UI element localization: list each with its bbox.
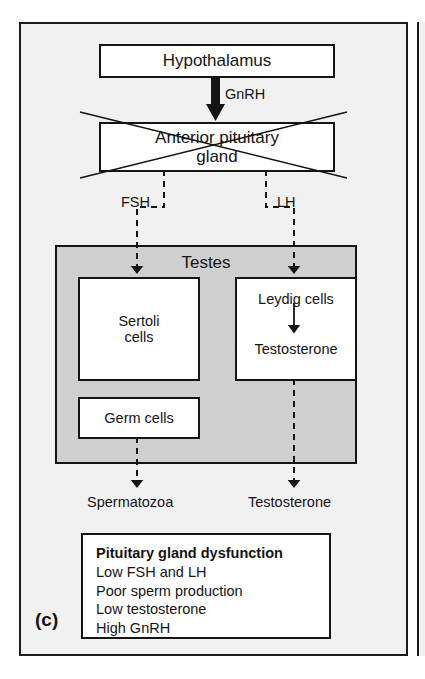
box-germ-cells-label: Germ cells xyxy=(104,410,173,426)
label-lh: LH xyxy=(277,194,296,210)
box-leydig-cells: Leydig cells Testosterone xyxy=(235,277,357,381)
adjacent-panel-edge xyxy=(417,22,425,656)
box-leydig-label: Leydig cells xyxy=(258,291,334,307)
box-testes-label: Testes xyxy=(57,253,355,273)
summary-line-3: Low testosterone xyxy=(96,600,329,618)
label-gnrh: GnRH xyxy=(225,86,265,102)
box-germ-cells: Germ cells xyxy=(78,397,200,439)
summary-line-4: High GnRH xyxy=(96,619,329,637)
figure-root: Hypothalamus Anterior pituitary gland Gn… xyxy=(0,0,425,679)
box-hypothalamus-label: Hypothalamus xyxy=(163,51,272,70)
label-fsh: FSH xyxy=(121,194,150,210)
figure-panel-c: Hypothalamus Anterior pituitary gland Gn… xyxy=(19,22,408,656)
box-anterior-pituitary-gland: Anterior pituitary gland xyxy=(99,122,335,172)
summary-line-1: Low FSH and LH xyxy=(96,563,329,581)
summary-title: Pituitary gland dysfunction xyxy=(96,544,329,562)
box-anterior-pituitary-line1: Anterior pituitary xyxy=(155,128,279,147)
label-testosterone-output: Testosterone xyxy=(248,494,331,510)
box-summary-dysfunction: Pituitary gland dysfunction Low FSH and … xyxy=(81,533,331,639)
summary-line-2: Poor sperm production xyxy=(96,582,329,600)
panel-letter-label: (c) xyxy=(35,609,58,631)
box-sertoli-cells: Sertoli cells xyxy=(78,277,200,381)
box-testosterone-inner-label: Testosterone xyxy=(254,341,337,357)
box-sertoli-line1: Sertoli xyxy=(118,313,159,329)
label-spermatozoa: Spermatozoa xyxy=(87,494,173,510)
box-hypothalamus: Hypothalamus xyxy=(99,44,335,78)
box-sertoli-line2: cells xyxy=(124,329,153,345)
box-anterior-pituitary-line2: gland xyxy=(196,147,238,166)
